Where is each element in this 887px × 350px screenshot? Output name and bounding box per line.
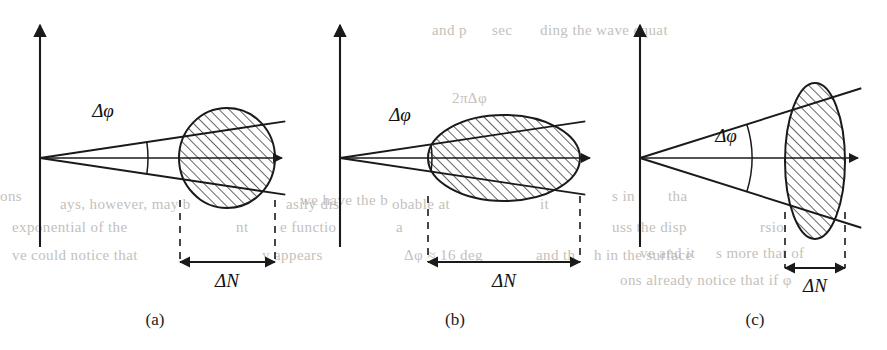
figure-canvas: ΔφΔN(a)ΔφΔN(b)ΔφΔN(c) xyxy=(0,0,887,350)
panel-caption-c: (c) xyxy=(746,310,765,329)
delta-n-label: ΔN xyxy=(214,270,240,291)
uncertainty-region-a xyxy=(179,108,275,208)
panel-a: ΔφΔN(a) xyxy=(40,25,285,329)
panel-c: ΔφΔN(c) xyxy=(640,25,861,329)
uncertainty-region-b xyxy=(428,115,580,201)
delta-phi-label: Δφ xyxy=(714,125,737,146)
panel-caption-a: (a) xyxy=(146,310,165,329)
panel-caption-b: (b) xyxy=(445,310,465,329)
delta-n-label: ΔN xyxy=(491,270,517,291)
uncertainty-region-c xyxy=(785,83,845,239)
delta-phi-label: Δφ xyxy=(91,100,114,121)
three-panel-uncertainty-diagram: ΔφΔN(a)ΔφΔN(b)ΔφΔN(c) xyxy=(0,0,887,350)
panel-b: ΔφΔN(b) xyxy=(340,25,590,329)
delta-phi-label: Δφ xyxy=(388,104,411,125)
delta-n-label: ΔN xyxy=(802,275,828,296)
